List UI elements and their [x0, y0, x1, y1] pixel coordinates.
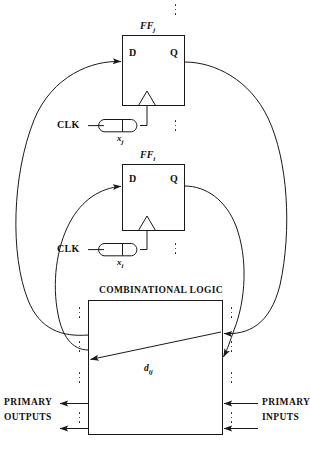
- primary-inputs-label-line1: PRIMARY: [262, 398, 310, 408]
- ellipsis-right-upper: [230, 307, 233, 321]
- ellipsis-left-upper: [78, 307, 81, 321]
- diagram-canvas: FFj D Q CLK xj FFi D Q CLK xi COMBINATIO…: [0, 0, 310, 449]
- primary-inputs-label-line2: INPUTS: [262, 413, 299, 423]
- ff-j-clock-triangle: [139, 91, 156, 106]
- ellipsis-left-bottom: [78, 412, 81, 426]
- combinational-logic-box: [89, 301, 223, 435]
- ellipsis-right-bottom: [230, 412, 233, 426]
- ellipsis-right-lower: [230, 372, 233, 386]
- gate-xi-label: xi: [117, 258, 123, 270]
- ff-j-q-pin: Q: [170, 48, 178, 58]
- gate-xi-body: [99, 244, 137, 256]
- diagram-vector-layer: [0, 0, 310, 449]
- ff-i-clock-wire: [140, 231, 147, 250]
- dij-path-arrow: [91, 332, 222, 360]
- ff-j-d-pin: D: [129, 48, 136, 58]
- ff-i-clk-label: CLK: [57, 244, 80, 254]
- ff-i-clock-triangle: [139, 216, 156, 231]
- primary-outputs-label-line2: OUTPUTS: [4, 413, 52, 423]
- primary-outputs-label-line1: PRIMARY: [4, 398, 52, 408]
- ellipsis-below-ff-i: [174, 243, 177, 257]
- ff-i-d-pin: D: [129, 174, 136, 184]
- gate-xj-label: xj: [117, 134, 123, 146]
- ff-j-clk-label: CLK: [57, 120, 80, 130]
- ellipsis-left-lower: [78, 372, 81, 386]
- ff-i-label: FFi: [140, 150, 155, 163]
- gate-xj-body: [99, 120, 137, 132]
- ellipsis-top: [174, 4, 177, 18]
- ellipsis-between-ffs: [174, 120, 177, 134]
- feedback-qi-to-cl: [185, 186, 245, 357]
- ff-j-box: [123, 36, 185, 106]
- ellipsis-right-mid: [230, 341, 233, 355]
- ff-j-clock-wire: [140, 106, 147, 126]
- ff-i-q-pin: Q: [170, 174, 178, 184]
- ff-j-label: FFj: [140, 21, 155, 34]
- ellipsis-left-mid: [78, 341, 81, 355]
- combinational-logic-title: COMBINATIONAL LOGIC: [99, 286, 223, 296]
- dij-label: dij: [144, 364, 153, 376]
